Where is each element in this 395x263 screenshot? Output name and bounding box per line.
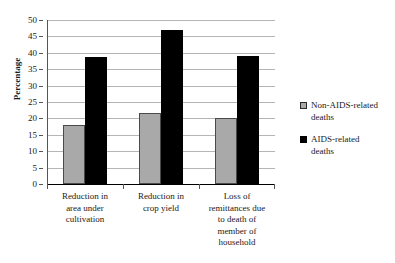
x-axis-category-label: Reduction incrop yield xyxy=(123,191,199,214)
x-axis-category-labels: Reduction inarea undercultivationReducti… xyxy=(47,191,275,263)
bar xyxy=(85,57,107,184)
x-axis-category-label: Reduction inarea undercultivation xyxy=(47,191,123,226)
y-axis-tick-mark xyxy=(39,102,43,103)
bar xyxy=(237,56,259,184)
y-axis-tick-mark xyxy=(39,135,43,136)
legend-swatch-icon xyxy=(300,136,307,143)
bar xyxy=(139,113,161,184)
category-tick-marks xyxy=(47,184,275,189)
y-axis-tick-mark xyxy=(39,36,43,37)
y-axis-tick-mark xyxy=(39,118,43,119)
y-axis-tick-mark xyxy=(39,69,43,70)
legend-label: AIDS-relateddeaths xyxy=(311,134,395,157)
plot-area xyxy=(47,20,275,184)
y-axis-tick-mark xyxy=(39,53,43,54)
legend-swatch-icon xyxy=(300,102,307,109)
y-axis-tick-mark xyxy=(39,168,43,169)
y-axis-tick-label: 20 xyxy=(28,114,37,123)
bar-group xyxy=(199,20,275,184)
y-axis-tick-label: 50 xyxy=(28,16,37,25)
bar-chart-figure: Percentage 05101520253035404550 Reductio… xyxy=(0,0,395,263)
category-tick-mark xyxy=(47,184,48,189)
y-axis-tick-label: 35 xyxy=(28,65,37,74)
y-axis-tick-labels: 05101520253035404550 xyxy=(0,20,44,184)
bar xyxy=(63,125,85,184)
y-axis-tick-label: 30 xyxy=(28,81,37,90)
bar xyxy=(215,118,237,184)
category-tick-mark xyxy=(123,184,124,189)
legend-label: Non-AIDS-relateddeaths xyxy=(311,100,395,123)
bar-group xyxy=(123,20,199,184)
legend-entry: Non-AIDS-relateddeaths xyxy=(300,100,395,123)
chart-legend: Non-AIDS-relateddeathsAIDS-relateddeaths xyxy=(300,100,395,168)
bar xyxy=(161,30,183,184)
legend-entry: AIDS-relateddeaths xyxy=(300,134,395,157)
y-axis-tick-label: 15 xyxy=(28,130,37,139)
y-axis-tick-mark xyxy=(39,86,43,87)
y-axis-tick-label: 45 xyxy=(28,32,37,41)
category-tick-mark xyxy=(274,184,275,189)
y-axis-tick-label: 40 xyxy=(28,48,37,57)
x-axis-category-label: Loss ofremittances dueto death ofmember … xyxy=(199,191,275,249)
bar-group xyxy=(47,20,123,184)
y-axis-tick-label: 0 xyxy=(33,180,38,189)
y-axis-tick-mark xyxy=(39,20,43,21)
bars-layer xyxy=(47,20,275,184)
y-axis-tick-label: 5 xyxy=(33,163,38,172)
y-axis-tick-label: 10 xyxy=(28,147,37,156)
y-axis-tick-mark xyxy=(39,151,43,152)
category-tick-mark xyxy=(199,184,200,189)
y-axis-tick-label: 25 xyxy=(28,98,37,107)
y-axis-tick-mark xyxy=(39,184,43,185)
